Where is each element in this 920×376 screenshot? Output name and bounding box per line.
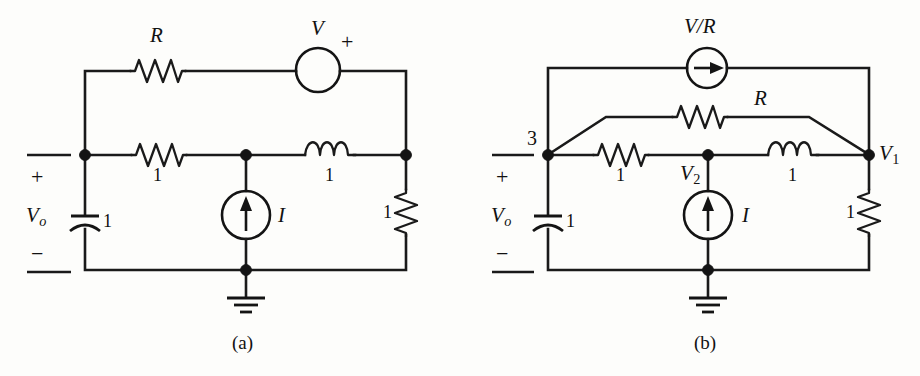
wire-a-cap-bottom-lead [85, 229, 246, 270]
caption-panel-b: (b) [694, 333, 716, 352]
label-b-series-resistor-value: 1 [616, 166, 625, 184]
label-b-node-v1-sub: 1 [892, 151, 900, 167]
label-a-series-resistor-value: 1 [153, 166, 162, 184]
label-b-bridge-resistor-R: R [754, 88, 767, 109]
wire-a-load-bottom-lead [247, 235, 406, 270]
wire-b-bridge-left-slant [549, 117, 672, 154]
label-a-voltage-source-V: V [311, 18, 324, 39]
label-b-load-resistor-value: 1 [846, 203, 855, 221]
wire-b-cap-bottom-lead [548, 229, 708, 270]
label-b-output-voltage: Vo [491, 205, 511, 228]
node-a-right [401, 150, 412, 161]
label-a-load-resistor-value: 1 [383, 203, 392, 221]
wire-b-left-riser [548, 68, 687, 156]
label-b-node-v1-main: V [879, 141, 892, 165]
label-a-current-source-I: I [278, 205, 285, 226]
panel-a-schematic [27, 48, 417, 312]
current-source-b-I-arrow-head [702, 196, 714, 211]
label-a-output-voltage-sub: o [39, 213, 47, 229]
circuit-schematic-svg [0, 0, 920, 376]
label-b-terminal-plus: + [496, 166, 508, 188]
inductor-b-body [768, 142, 819, 155]
node-b-ground [703, 265, 714, 276]
label-a-capacitor-value: 1 [103, 212, 112, 230]
resistor-b-series-1-body [593, 144, 649, 166]
node-b-v1 [864, 150, 875, 161]
label-a-output-voltage-main: V [26, 203, 39, 227]
label-b-inductor-value: 1 [788, 166, 797, 184]
node-b-3 [543, 150, 554, 161]
node-a-middle [241, 150, 252, 161]
resistor-b-bridge-R-body [672, 106, 728, 128]
label-b-capacitor-value: 1 [566, 212, 575, 230]
label-a-terminal-plus: + [31, 166, 43, 188]
voltage-source-a-circle [296, 48, 340, 92]
current-source-a-arrow-head [240, 196, 252, 211]
label-b-output-voltage-main: V [491, 203, 504, 227]
label-b-current-source-VoverR: V/R [684, 16, 716, 37]
label-b-output-voltage-sub: o [504, 213, 512, 229]
label-a-voltage-source-polarity: + [341, 31, 353, 53]
inductor-a-body [305, 142, 356, 155]
node-a-ground [241, 265, 252, 276]
label-b-current-source-I: I [742, 205, 749, 226]
label-b-node-v1: V1 [879, 143, 899, 166]
current-source-b-arrow-head [710, 62, 724, 74]
resistor-a-top-R-body [130, 60, 186, 82]
label-a-output-voltage: Vo [26, 205, 46, 228]
resistor-a-load-1-body [395, 189, 417, 237]
label-b-node-3: 3 [527, 128, 537, 148]
resistor-b-load-1-body [858, 189, 880, 237]
label-a-inductor-value: 1 [325, 166, 334, 184]
caption-panel-a: (a) [232, 333, 253, 352]
label-b-terminal-minus: − [496, 243, 508, 265]
label-b-node-v2: V2 [680, 163, 700, 186]
wire-b-load-bottom-lead [709, 235, 869, 270]
node-b-v2 [703, 150, 714, 161]
node-a-top-left [80, 150, 91, 161]
label-a-terminal-minus: − [31, 243, 43, 265]
figure-canvas: R V + 1 1 1 I 1 + − Vo (a) V/R R 1 1 1 I… [0, 0, 920, 376]
wire-a-left-riser [85, 71, 130, 156]
label-a-resistor-R: R [150, 25, 163, 46]
label-b-node-v2-sub: 2 [693, 171, 701, 187]
resistor-a-series-1-body [131, 144, 187, 166]
wire-a-source-to-right [340, 71, 406, 154]
label-b-node-v2-main: V [680, 161, 693, 185]
